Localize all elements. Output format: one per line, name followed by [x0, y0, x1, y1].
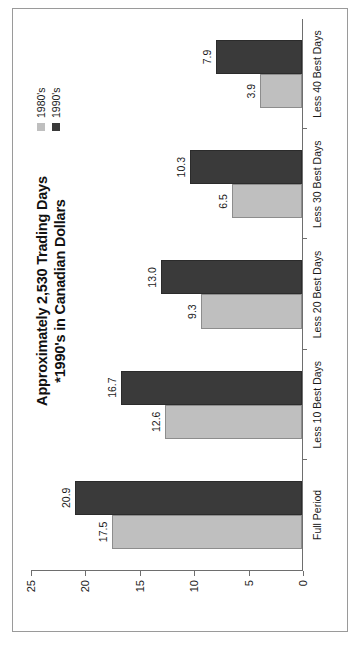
tick-label: 5	[243, 580, 255, 586]
bar-group: 17.520.9Full Period	[31, 460, 302, 570]
tick-mark	[303, 571, 304, 576]
bar-slot: 20.9	[31, 481, 302, 515]
tick-label: 10	[188, 580, 200, 592]
rotated-chart-canvas: Approximately 2,530 Trading Days *1990's…	[0, 0, 364, 664]
tick-label: 25	[25, 580, 37, 592]
bar-value-label: 20.9	[60, 488, 72, 508]
bar-value-label: 10.3	[175, 157, 187, 177]
bar-value-label: 9.3	[186, 304, 198, 319]
tick-mark	[249, 571, 250, 576]
bar[interactable]	[75, 481, 302, 515]
category-axis-tick	[302, 238, 307, 239]
category-label: Less 40 Best Days	[311, 30, 323, 118]
bar-slot: 12.6	[31, 405, 302, 439]
bar-slot: 7.9	[31, 40, 302, 74]
tick-mark	[194, 571, 195, 576]
category-label: Less 10 Best Days	[311, 361, 323, 449]
tick-label: 20	[79, 580, 91, 592]
category-axis-tick	[302, 349, 307, 350]
bar-group: 12.616.7Less 10 Best Days	[31, 350, 302, 460]
tick-label: 15	[134, 580, 146, 592]
category-axis-tick	[302, 128, 307, 129]
bar[interactable]	[161, 260, 302, 294]
bar[interactable]	[201, 295, 302, 329]
category-axis-line	[302, 19, 303, 571]
bar-group: 9.313.0Less 20 Best Days	[31, 239, 302, 349]
category-label: Less 20 Best Days	[311, 251, 323, 339]
bar-value-label: 12.6	[150, 412, 162, 432]
plot-area: 0510152025 17.520.9Full Period12.616.7Le…	[31, 19, 303, 571]
bar-groups: 17.520.9Full Period12.616.7Less 10 Best …	[31, 19, 302, 570]
bar[interactable]	[165, 405, 302, 439]
bar-value-label: 3.9	[245, 84, 257, 99]
bar-value-label: 13.0	[146, 267, 158, 287]
bar-group: 3.97.9Less 40 Best Days	[31, 19, 302, 129]
tick-mark	[85, 571, 86, 576]
tick-mark	[140, 571, 141, 576]
bar-value-label: 17.5	[97, 522, 109, 542]
bar-value-label: 16.7	[106, 377, 118, 397]
category-label: Less 30 Best Days	[311, 141, 323, 229]
value-axis-line	[31, 570, 303, 571]
category-label: Full Period	[311, 490, 323, 540]
bar-slot: 10.3	[31, 150, 302, 184]
bar-value-label: 6.5	[217, 194, 229, 209]
tick-mark	[31, 571, 32, 576]
bar[interactable]	[232, 184, 302, 218]
bar[interactable]	[121, 371, 302, 405]
bar-slot: 13.0	[31, 260, 302, 294]
category-axis-tick	[302, 459, 307, 460]
bar-slot: 6.5	[31, 184, 302, 218]
bar-slot: 17.5	[31, 515, 302, 549]
bar[interactable]	[190, 150, 302, 184]
bar[interactable]	[216, 40, 302, 74]
bar-slot: 3.9	[31, 74, 302, 108]
bar-slot: 16.7	[31, 371, 302, 405]
bar-group: 6.510.3Less 30 Best Days	[31, 129, 302, 239]
tick-label: 0	[297, 580, 309, 586]
chart-frame: Approximately 2,530 Trading Days *1990's…	[12, 8, 348, 632]
bar[interactable]	[260, 74, 302, 108]
bar[interactable]	[112, 515, 302, 549]
bar-value-label: 7.9	[201, 50, 213, 65]
chart-page: Approximately 2,530 Trading Days *1990's…	[0, 0, 364, 664]
bar-slot: 9.3	[31, 295, 302, 329]
